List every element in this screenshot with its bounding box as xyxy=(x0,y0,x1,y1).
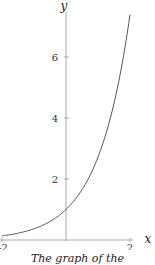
y-tick-label: 2 xyxy=(52,174,58,185)
y-tick-label: 6 xyxy=(52,52,58,63)
y-tick-label: 4 xyxy=(52,113,58,124)
axis-ticks: 246-22 xyxy=(0,52,133,251)
x-tick-label: 2 xyxy=(127,242,133,250)
exponential-chart: 246-22 y x xyxy=(0,0,155,250)
figure-caption: The graph of the xyxy=(0,252,155,265)
x-axis-label: x xyxy=(145,232,152,246)
x-tick-label: -2 xyxy=(0,242,8,250)
y-axis-label: y xyxy=(60,0,68,13)
